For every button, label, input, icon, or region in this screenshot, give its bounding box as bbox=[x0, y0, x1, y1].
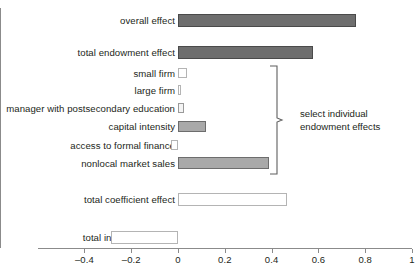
x-tick-label: 0 bbox=[175, 254, 180, 265]
category-label: total coefficient effect bbox=[84, 194, 175, 205]
category-label: total endowment effect bbox=[78, 47, 175, 58]
category-label: manager with postsecondary education bbox=[6, 103, 175, 114]
category-label: nonlocal market sales bbox=[81, 158, 175, 169]
bar bbox=[111, 231, 178, 244]
bar bbox=[178, 157, 269, 169]
bar-row: access to formal finance bbox=[0, 140, 419, 150]
x-tick-mark bbox=[178, 249, 179, 253]
x-tick-mark bbox=[84, 249, 85, 253]
bar bbox=[178, 121, 206, 132]
x-tick-label: –0.4 bbox=[75, 254, 94, 265]
bar bbox=[178, 85, 181, 95]
category-label: overall effect bbox=[120, 15, 175, 26]
category-label: small firm bbox=[133, 68, 175, 79]
annotation-line-2: endowment effects bbox=[300, 121, 380, 133]
bar bbox=[178, 46, 313, 59]
bar bbox=[171, 140, 178, 150]
x-tick-mark bbox=[365, 249, 366, 253]
bar bbox=[178, 193, 287, 206]
category-label: access to formal finance bbox=[70, 140, 175, 151]
bar-row: total interaction effect bbox=[0, 231, 419, 244]
x-tick-label: –0.2 bbox=[122, 254, 141, 265]
bar bbox=[178, 103, 184, 113]
bar-chart: –0.4–0.200.20.40.60.81 overall effecttot… bbox=[0, 0, 419, 275]
x-tick-label: 0.6 bbox=[312, 254, 326, 265]
annotation-line-1: select individual bbox=[300, 108, 368, 120]
x-tick-label: 0.2 bbox=[218, 254, 232, 265]
category-label: capital intensity bbox=[109, 121, 175, 132]
x-tick-label: 0.8 bbox=[358, 254, 372, 265]
x-tick-mark bbox=[225, 249, 226, 253]
x-tick-mark bbox=[412, 249, 413, 253]
bar-row: large firm bbox=[0, 85, 419, 95]
bar-row: small firm bbox=[0, 68, 419, 78]
x-tick-label: 1 bbox=[409, 254, 414, 265]
bracket-icon bbox=[268, 64, 298, 176]
bar-row: total endowment effect bbox=[0, 46, 419, 59]
bar-row: overall effect bbox=[0, 14, 419, 27]
bar-row: nonlocal market sales bbox=[0, 157, 419, 169]
category-label: large firm bbox=[135, 85, 175, 96]
x-tick-label: 0.4 bbox=[265, 254, 279, 265]
bar bbox=[178, 14, 356, 27]
bar bbox=[178, 68, 187, 78]
bar-row: total coefficient effect bbox=[0, 193, 419, 206]
x-tick-mark bbox=[318, 249, 319, 253]
plot-area: –0.4–0.200.20.40.60.81 overall effecttot… bbox=[0, 0, 419, 248]
x-tick-mark bbox=[272, 249, 273, 253]
x-tick-mark bbox=[131, 249, 132, 253]
